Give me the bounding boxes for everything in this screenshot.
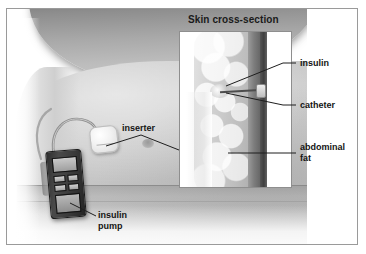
label-catheter: catheter xyxy=(300,100,335,111)
leader-lines xyxy=(0,0,366,254)
illustration-figure: Skin cross-section insulin catheter abdo… xyxy=(0,0,366,254)
label-inserter: inserter xyxy=(122,123,155,134)
label-abdominal-fat: abdominal fat xyxy=(300,142,362,163)
label-insulin: insulin xyxy=(300,58,329,69)
label-insulin-pump: insulin pump xyxy=(98,210,127,231)
